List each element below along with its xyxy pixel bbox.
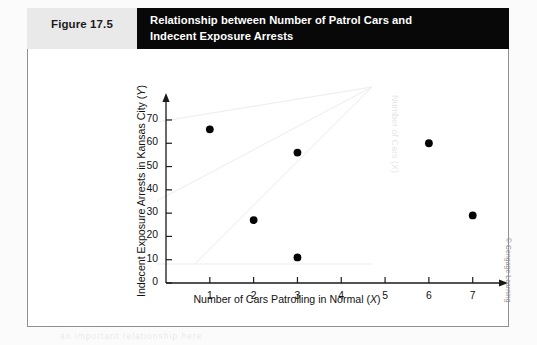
data-point-group [206, 125, 477, 261]
x-tick-label: 7 [465, 290, 481, 301]
data-point [294, 149, 302, 157]
scatter-plot: 010203040506070 1234567 Indecent Exposur… [27, 49, 509, 327]
y-axis-title: Indecent Exposure Arrests in Kansas City… [135, 76, 147, 306]
plot-axes [166, 101, 502, 283]
data-point [250, 216, 258, 224]
copyright-credit: © Cengage Learning [505, 238, 512, 303]
plot-canvas [27, 49, 509, 327]
figure-number-label: Figure 17.5 [51, 18, 113, 30]
figure-header: Figure 17.5 Relationship between Number … [27, 8, 509, 49]
data-point [425, 139, 433, 147]
x-axis-title: Number of Cars Patrolling in Normal (X) [137, 293, 437, 305]
ghost-lines [157, 87, 372, 264]
y-axis-ticks [166, 120, 172, 283]
axis-variable-symbol: X [370, 293, 377, 305]
axis-variable-symbol: Y [135, 89, 147, 96]
data-point [206, 125, 214, 133]
figure-number-band: Figure 17.5 [27, 8, 137, 49]
y-axis-arrow [162, 93, 169, 102]
x-axis-ticks [210, 277, 473, 283]
figure-title-band: Relationship between Number of Patrol Ca… [137, 8, 509, 49]
data-point [294, 253, 302, 261]
data-point [469, 212, 477, 220]
figure-title: Relationship between Number of Patrol Ca… [150, 13, 412, 44]
